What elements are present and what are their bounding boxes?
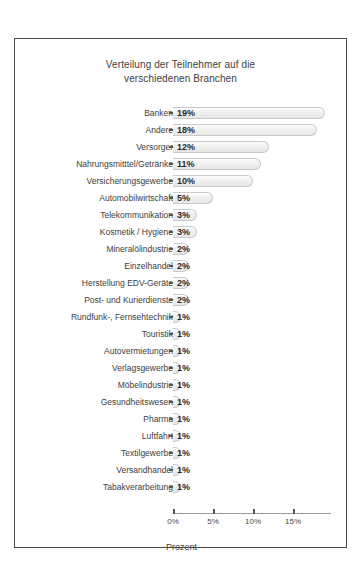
x-tick <box>213 509 215 514</box>
bar-value-label: 3% <box>177 226 190 238</box>
bar-value-label: 1% <box>177 345 190 357</box>
bar-value-label: 10% <box>177 175 195 187</box>
bar-value-label: 1% <box>177 328 190 340</box>
bar-value-label: 12% <box>177 141 195 153</box>
bar-value-label: 19% <box>177 107 195 119</box>
bar-value-label: 1% <box>177 481 190 493</box>
bar-row: Mineralölindustrie2% <box>15 241 348 258</box>
bar-row: Nahrungsmitttel/Getränke11% <box>15 156 348 173</box>
bar-row: Möbelindustrie1% <box>15 377 348 394</box>
chart-title: Verteilung der Teilnehmer auf die versch… <box>15 58 346 86</box>
bar-row: Tabakverarbeitung1% <box>15 479 348 496</box>
bar-row: Pharma1% <box>15 411 348 428</box>
x-tick-label: 5% <box>207 517 219 527</box>
bar-value-label: 2% <box>177 260 190 272</box>
category-label: Gesundheitswesen <box>13 396 173 408</box>
category-label: Mineralölindustrie <box>13 243 173 255</box>
bar-row: Rundfunk-, Fernsehtechnik1% <box>15 309 348 326</box>
category-label: Rundfunk-, Fernsehtechnik <box>13 311 173 323</box>
bar-row: Herstellung EDV-Geräte2% <box>15 275 348 292</box>
category-label: Luftfahrt <box>13 430 173 442</box>
x-tick <box>253 509 255 514</box>
category-label: Versandhandel <box>13 464 173 476</box>
category-label: Banken <box>13 107 173 119</box>
bar-value-label: 18% <box>177 124 195 136</box>
bar-row: Luftfahrt1% <box>15 428 348 445</box>
category-label: Automobilwirtschaft <box>13 192 173 204</box>
category-label: Post- und Kurierdienste <box>13 294 173 306</box>
x-axis-line <box>173 513 331 514</box>
x-axis-title: Prozent <box>15 542 348 552</box>
x-tick-label: 0% <box>167 517 179 527</box>
x-axis: 0%5%10%15% Prozent <box>15 513 348 553</box>
category-label: Andere <box>13 124 173 136</box>
bar-row: Andere18% <box>15 122 348 139</box>
x-tick-label: 10% <box>245 517 261 527</box>
bar-value-label: 2% <box>177 294 190 306</box>
category-label: Verlagsgewerbe <box>13 362 173 374</box>
category-label: Nahrungsmitttel/Getränke <box>13 158 173 170</box>
bar-row: Autovermietungen1% <box>15 343 348 360</box>
bar-value-label: 1% <box>177 447 190 459</box>
category-label: Autovermietungen <box>13 345 173 357</box>
bar-row: Banken19% <box>15 105 348 122</box>
category-label: Möbelindustrie <box>13 379 173 391</box>
bar-value-label: 3% <box>177 209 190 221</box>
bar-value-label: 1% <box>177 311 190 323</box>
bar-row: Versorger12% <box>15 139 348 156</box>
x-tick <box>173 509 175 514</box>
chart-frame: Verteilung der Teilnehmer auf die versch… <box>14 38 347 548</box>
bar-row: Versicherungsgewerbe10% <box>15 173 348 190</box>
bar-value-label: 1% <box>177 379 190 391</box>
bar-row: Einzelhandel2% <box>15 258 348 275</box>
bar-row: Verlagsgewerbe1% <box>15 360 348 377</box>
bar-value-label: 2% <box>177 277 190 289</box>
bar-value-label: 11% <box>177 158 195 170</box>
bar-row: Versandhandel1% <box>15 462 348 479</box>
category-label: Versorger <box>13 141 173 153</box>
bar-value-label: 2% <box>177 243 190 255</box>
category-label: Pharma <box>13 413 173 425</box>
category-label: Einzelhandel <box>13 260 173 272</box>
chart-title-line-2: verschiedenen Branchen <box>15 72 346 86</box>
bar-value-label: 1% <box>177 362 190 374</box>
bar-value-label: 1% <box>177 430 190 442</box>
bar-row: Touristik1% <box>15 326 348 343</box>
category-label: Herstellung EDV-Geräte <box>13 277 173 289</box>
bar-row: Automobilwirtschaft5% <box>15 190 348 207</box>
category-label: Touristik <box>13 328 173 340</box>
category-label: Kosmetik / Hygiene <box>13 226 173 238</box>
bar-row: Gesundheitswesen1% <box>15 394 348 411</box>
category-label: Tabakverarbeitung <box>13 481 173 493</box>
bar-value-label: 1% <box>177 396 190 408</box>
bar-row: Post- und Kurierdienste2% <box>15 292 348 309</box>
bar-value-label: 5% <box>177 192 190 204</box>
category-label: Textilgewerbe <box>13 447 173 459</box>
x-tick <box>293 509 295 514</box>
bar <box>173 107 325 119</box>
category-label: Telekommunikation <box>13 209 173 221</box>
bar-row: Telekommunikation3% <box>15 207 348 224</box>
bar-value-label: 1% <box>177 464 190 476</box>
x-tick-label: 15% <box>285 517 301 527</box>
bar-value-label: 1% <box>177 413 190 425</box>
bar-row: Kosmetik / Hygiene3% <box>15 224 348 241</box>
plot-area: Banken19%Andere18%Versorger12%Nahrungsmi… <box>15 105 348 496</box>
bar-row: Textilgewerbe1% <box>15 445 348 462</box>
category-label: Versicherungsgewerbe <box>13 175 173 187</box>
chart-title-line-1: Verteilung der Teilnehmer auf die <box>15 58 346 72</box>
